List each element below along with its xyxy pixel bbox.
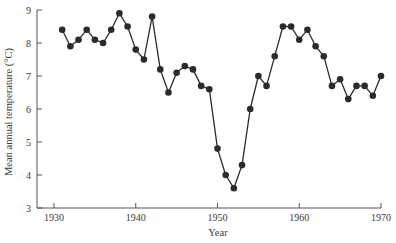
data-point bbox=[182, 63, 189, 70]
data-point bbox=[75, 36, 82, 43]
data-point bbox=[263, 83, 270, 90]
data-point-markers bbox=[59, 10, 384, 192]
data-point bbox=[304, 27, 311, 34]
data-point bbox=[288, 23, 295, 30]
y-axis-title: Mean annual temperature (°C) bbox=[3, 47, 15, 176]
data-point bbox=[149, 13, 156, 20]
x-axis-title: Year bbox=[208, 227, 228, 238]
data-point bbox=[157, 66, 164, 73]
x-tick-label: 1970 bbox=[371, 212, 391, 223]
data-point bbox=[361, 83, 368, 90]
chart-canvas: 3456789 19301940195019601970 Year Mean a… bbox=[0, 0, 396, 243]
data-point bbox=[247, 106, 254, 113]
y-tick-label: 3 bbox=[26, 203, 31, 214]
data-point bbox=[214, 145, 221, 152]
data-point bbox=[353, 83, 360, 90]
data-point bbox=[100, 40, 107, 47]
y-tick-label: 5 bbox=[26, 137, 31, 148]
data-point bbox=[345, 96, 352, 103]
data-point bbox=[165, 89, 172, 96]
series-polyline bbox=[62, 13, 381, 188]
temperature-line-chart: 3456789 19301940195019601970 Year Mean a… bbox=[0, 0, 396, 243]
data-point bbox=[124, 23, 131, 30]
data-point bbox=[92, 36, 99, 43]
data-point bbox=[231, 185, 238, 192]
data-point bbox=[337, 76, 344, 83]
data-point bbox=[132, 46, 139, 53]
data-point bbox=[378, 73, 385, 80]
data-point bbox=[312, 43, 319, 50]
data-point bbox=[206, 86, 213, 93]
data-point bbox=[271, 53, 278, 60]
y-tick-label: 6 bbox=[26, 104, 31, 115]
x-tick-label: 1960 bbox=[289, 212, 309, 223]
y-tick-label: 8 bbox=[26, 38, 31, 49]
data-point bbox=[280, 23, 287, 30]
x-tick-label: 1950 bbox=[208, 212, 228, 223]
data-point bbox=[320, 53, 327, 60]
x-tick-label: 1940 bbox=[126, 212, 146, 223]
x-axis-ticks: 19301940195019601970 bbox=[44, 203, 391, 223]
y-tick-label: 7 bbox=[26, 71, 31, 82]
data-point bbox=[329, 83, 336, 90]
y-tick-label: 4 bbox=[26, 170, 31, 181]
data-point bbox=[108, 27, 115, 34]
axes bbox=[37, 10, 381, 208]
data-point bbox=[198, 83, 205, 90]
data-series-line bbox=[62, 13, 381, 188]
y-axis-ticks: 3456789 bbox=[26, 5, 42, 214]
data-point bbox=[59, 27, 66, 34]
data-point bbox=[67, 43, 74, 50]
y-tick-label: 9 bbox=[26, 5, 31, 16]
data-point bbox=[141, 56, 148, 63]
data-point bbox=[296, 36, 303, 43]
data-point bbox=[222, 172, 229, 179]
data-point bbox=[173, 69, 180, 76]
data-point bbox=[239, 162, 246, 169]
x-tick-label: 1930 bbox=[44, 212, 64, 223]
data-point bbox=[83, 27, 90, 34]
data-point bbox=[116, 10, 123, 17]
data-point bbox=[190, 66, 197, 73]
data-point bbox=[255, 73, 262, 80]
data-point bbox=[370, 93, 377, 100]
